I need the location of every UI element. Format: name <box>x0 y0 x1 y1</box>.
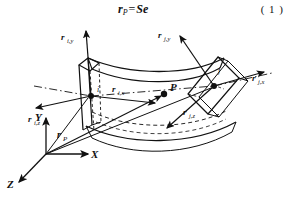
figure-container: rP=Se ( 1 ) <box>0 0 294 203</box>
node-i-director-y-symbol: r <box>61 32 65 42</box>
point-p-label: P <box>170 81 177 93</box>
node-j-director-x-arrow <box>214 72 264 86</box>
node-j-director-x-symbol: r <box>252 73 256 83</box>
node-j-director-z-subscript: j,z <box>188 112 195 119</box>
equation-lhs-subscript: P <box>123 8 128 17</box>
point-p-marker <box>161 91 167 97</box>
position-vector-label: r P <box>57 129 68 143</box>
shell-top-surface-front-edge <box>88 58 224 72</box>
equation-number: ( 1 ) <box>261 3 284 15</box>
node-j-director-y-arrow <box>180 36 214 86</box>
local-x-chain-axis-left <box>34 86 91 96</box>
node-i-label: i <box>97 85 99 94</box>
node-j-director-y-symbol: r <box>158 30 162 40</box>
node-i-director-x-subscript: i,x <box>118 89 124 96</box>
node-i-director-y-subscript: i,y <box>67 37 73 44</box>
node-i-director-z-arrow <box>36 96 91 108</box>
node-j-director-x-subscript: j,x <box>257 78 264 85</box>
node-i-director-y-label: r i,y <box>61 32 73 44</box>
node-j-director-y-subscript: j,y <box>163 35 170 42</box>
global-axis-z-label: Z <box>6 178 14 190</box>
global-axis-z-arrow <box>19 154 46 182</box>
shell-element-diagram: Y X Z r P P i j r i,y r i,x r i,z r j,y <box>0 18 294 203</box>
shell-mid-surface-curve <box>92 110 228 125</box>
position-vector-subscript: P <box>62 135 68 143</box>
node-i-director-z-symbol: r <box>28 114 32 124</box>
node-j-director-z-symbol: r <box>183 107 187 117</box>
equation-rhs: Se <box>136 2 148 16</box>
shell-top-surface-back-edge <box>92 68 220 82</box>
equation-expression: rP=Se <box>118 2 148 17</box>
node-i-director-z-subscript: i,z <box>34 119 40 126</box>
shell-bottom-surface-back-edge <box>92 132 232 151</box>
position-vector-rp-arrow <box>46 96 161 154</box>
global-axis-x-label: X <box>90 148 99 160</box>
node-j-director-y-label: r j,y <box>158 30 170 42</box>
node-i-director-x-symbol: r <box>112 84 116 94</box>
position-vector-symbol: r <box>57 129 61 140</box>
